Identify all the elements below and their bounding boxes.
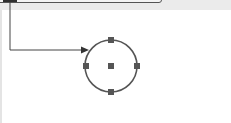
arrow-head-icon (81, 47, 89, 54)
connector-edge[interactable] (10, 2, 89, 54)
diagram-canvas[interactable] (0, 0, 231, 123)
handle-center[interactable] (108, 63, 114, 69)
handle-bottom[interactable] (108, 89, 114, 95)
selection-handles[interactable] (83, 37, 140, 95)
handle-top[interactable] (108, 37, 114, 43)
handle-left[interactable] (83, 63, 89, 69)
handle-right[interactable] (134, 63, 140, 69)
